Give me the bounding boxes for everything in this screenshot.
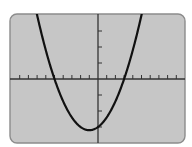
calculator-graph-screen (0, 0, 192, 147)
